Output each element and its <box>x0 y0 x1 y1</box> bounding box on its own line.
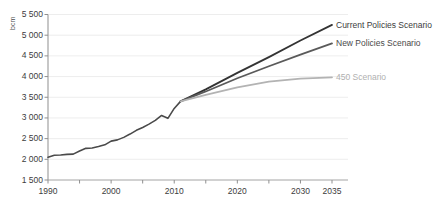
series-label: Current Policies Scenario <box>336 20 432 30</box>
series-label: New Policies Scenario <box>336 38 421 48</box>
series-line <box>48 101 181 157</box>
y-tick-label: 1 500 <box>6 175 43 185</box>
x-tick-label: 2020 <box>217 186 257 196</box>
y-tick-label: 2 500 <box>6 133 43 143</box>
y-tick-label: 4 000 <box>6 71 43 81</box>
series-line <box>181 25 332 102</box>
chart-plot-area <box>0 0 443 208</box>
y-tick-label: 5 000 <box>6 30 43 40</box>
y-tick-label: 3 000 <box>6 112 43 122</box>
y-tick-label: 2 000 <box>6 154 43 164</box>
series-line <box>181 43 332 101</box>
x-tick-label: 2000 <box>91 186 131 196</box>
series-label: 450 Scenario <box>336 72 386 82</box>
y-tick-label: 3 500 <box>6 92 43 102</box>
y-tick-label: 4 500 <box>6 50 43 60</box>
x-tick-label: 2035 <box>312 186 352 196</box>
x-tick-label: 2010 <box>154 186 194 196</box>
series-line <box>181 77 332 101</box>
y-tick-label: 5 500 <box>6 9 43 19</box>
x-tick-label: 1990 <box>28 186 68 196</box>
series-lines-group <box>48 25 332 157</box>
gas-demand-line-chart: bcm 5 5005 0004 5004 0003 5003 0002 5002… <box>0 0 443 208</box>
